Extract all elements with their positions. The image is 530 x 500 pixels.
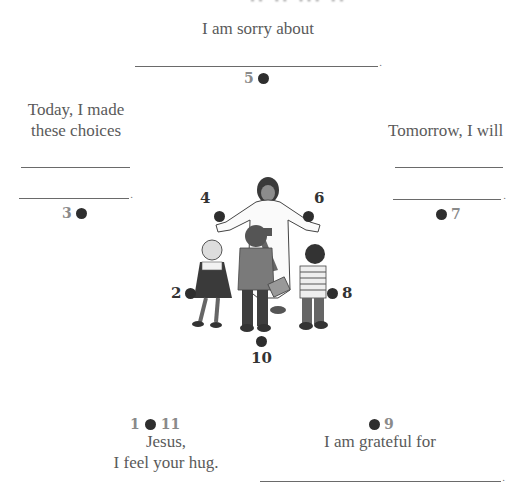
marker-6: 6	[302, 191, 324, 222]
dot-icon	[436, 209, 447, 220]
marker-number: 5	[244, 71, 254, 85]
marker-number: 4	[200, 191, 210, 205]
answer-line-today-1[interactable]	[21, 167, 130, 168]
dot-icon	[145, 419, 156, 430]
marker-number: 3	[62, 206, 72, 220]
marker-number: 8	[342, 286, 352, 300]
answer-line-tomorrow-2[interactable]	[393, 199, 501, 200]
dot-icon	[256, 336, 267, 347]
jesus-children-illustration	[160, 170, 360, 340]
marker-4: 4	[200, 191, 225, 222]
answer-line-today-2[interactable]	[19, 198, 129, 199]
period: .	[379, 57, 382, 68]
dot-icon	[327, 288, 338, 299]
prompt-grateful: I am grateful for	[310, 431, 450, 452]
marker-number: 1	[130, 417, 140, 431]
dot-icon	[76, 208, 87, 219]
prompt-today: Today, I made these choices	[14, 99, 138, 141]
marker-number: 11	[161, 417, 180, 431]
marker-2: 2	[171, 286, 196, 300]
marker-number: 7	[451, 207, 461, 221]
dot-icon	[303, 211, 314, 222]
cropped-heading-text: ·· ·· ··· ··	[250, 0, 450, 3]
boy-right-figure-icon	[299, 244, 328, 330]
prompt-jesus-line-2: I feel your hug.	[96, 452, 236, 473]
period: .	[503, 190, 506, 201]
period: .	[130, 189, 133, 200]
dot-icon	[185, 288, 196, 299]
answer-line-tomorrow-1[interactable]	[395, 167, 503, 168]
marker-number: 6	[314, 191, 324, 205]
prompt-today-line-1: Today, I made	[14, 99, 138, 120]
cropped-heading: ·· ·· ··· ··	[250, 0, 450, 3]
prompt-jesus-hug: Jesus, I feel your hug.	[96, 431, 236, 473]
marker-number: 10	[251, 351, 272, 365]
prompt-tomorrow: Tomorrow, I will	[388, 120, 520, 141]
marker-number: 9	[384, 417, 394, 431]
marker-9: 9	[369, 417, 394, 431]
dot-icon	[369, 419, 380, 430]
answer-line-grateful[interactable]	[260, 481, 501, 482]
marker-7: 7	[436, 207, 461, 221]
prompt-jesus-line-1: Jesus,	[96, 431, 236, 452]
prompt-today-line-2: these choices	[14, 120, 138, 141]
dot-icon	[214, 211, 225, 222]
marker-number: 2	[171, 286, 181, 300]
prompt-sorry: I am sorry about	[0, 18, 516, 39]
marker-1-11: 1 11	[130, 417, 180, 431]
marker-3: 3	[62, 206, 87, 220]
marker-10: 10	[251, 336, 272, 365]
girl-figure-icon	[192, 240, 232, 328]
dot-icon	[258, 73, 269, 84]
period: .	[502, 472, 505, 483]
marker-8: 8	[327, 286, 352, 300]
answer-line-sorry[interactable]	[135, 66, 378, 67]
marker-5: 5	[244, 71, 269, 85]
